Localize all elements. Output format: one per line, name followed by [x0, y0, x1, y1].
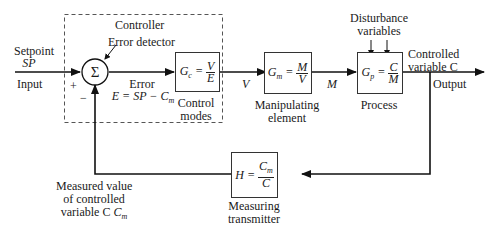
input-label: Input [17, 78, 42, 91]
controller-block: Gc = VE [175, 52, 220, 92]
disturbance-label: Disturbancevariables [348, 12, 410, 38]
summing-junction: Σ [85, 64, 105, 80]
controlled-variable-label: Controlledvariable C [408, 48, 459, 74]
plus-sign: + [70, 80, 77, 93]
process-block: Gp = CM [357, 52, 403, 94]
manipulating-element-block: Gm = MV [264, 52, 312, 94]
minus-sign: − [80, 92, 87, 105]
signal-v-label: V [242, 78, 249, 91]
measured-value-label: Measured valueof controlledvariable C Cm [56, 180, 132, 223]
measuring-transmitter-block: H = CmC [231, 152, 278, 198]
signal-m-label: M [327, 78, 337, 91]
manipulating-element-caption: Manipulatingelement [252, 99, 322, 125]
control-modes-caption: Controlmodes [170, 97, 222, 123]
process-caption: Process [356, 99, 402, 112]
setpoint-symbol: SP [14, 57, 44, 70]
error-equation: E = SP − Cm [108, 90, 178, 107]
error-detector-label: Error detector [108, 36, 175, 49]
measuring-transmitter-caption: Measuringtransmitter [222, 200, 286, 226]
output-label: Output [433, 78, 466, 91]
controller-group-label: Controller [115, 19, 164, 32]
